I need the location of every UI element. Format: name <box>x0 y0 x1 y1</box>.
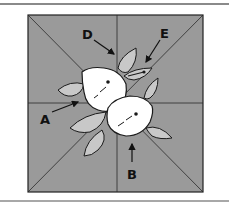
lemon-lower-dot <box>134 112 138 116</box>
lemon-upper-dot <box>106 80 110 84</box>
label-a: A <box>40 112 50 127</box>
leaf-stem-dot <box>142 70 145 73</box>
label-e: E <box>160 26 169 41</box>
label-d: D <box>82 27 93 42</box>
label-b: B <box>127 167 137 182</box>
quilt-block-diagram: A B D E <box>0 0 229 206</box>
